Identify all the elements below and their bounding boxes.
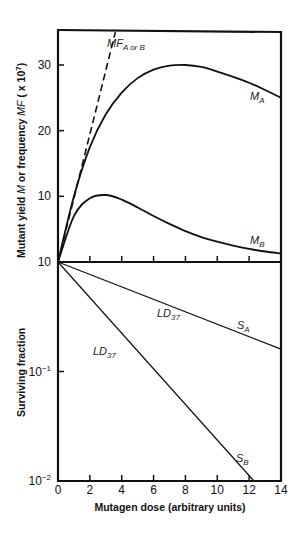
x-tick-label: 6 — [150, 483, 157, 497]
y-tick-label: 30 — [38, 58, 52, 72]
x-axis-title: Mutagen dose (arbitrary units) — [94, 501, 245, 513]
y-tick-label: 20 — [38, 124, 52, 138]
lower-curves — [58, 262, 281, 481]
sb-label: SB — [236, 452, 249, 467]
mf-label: MFA or B — [107, 37, 145, 52]
sa-label: SA — [237, 319, 250, 334]
curve-m-b — [58, 195, 281, 262]
mb-label: MB — [250, 234, 265, 249]
y-tick-label: 10 — [38, 189, 52, 203]
curve-m-a — [58, 65, 281, 262]
x-tick-label: 8 — [182, 483, 189, 497]
y-tick-label: 10 — [38, 255, 52, 269]
x-tick-label: 4 — [118, 483, 125, 497]
y-tick-label: 10−1 — [29, 364, 52, 379]
x-tick-label: 10 — [211, 483, 225, 497]
y-tick-label: 10−2 — [29, 473, 52, 488]
plot-frame — [57, 29, 282, 481]
ld37-label-sb: LD37 — [93, 345, 117, 360]
upper-y-ticks: 102030 — [38, 58, 64, 203]
x-tick-label: 2 — [87, 483, 94, 497]
lower-y-axis-title: Surviving fraction — [15, 328, 27, 417]
upper-y-axis-title: Mutant yield M or frequency MF ( x 107) — [14, 63, 27, 258]
curve-s-a — [58, 262, 281, 349]
ma-label: MA — [250, 90, 265, 105]
ld37-label-sa: LD37 — [157, 307, 181, 322]
x-tick-label: 14 — [274, 483, 288, 497]
mutagen-dose-chart: 102030 1010−110−2 02468101214 MFA or B M… — [0, 0, 301, 540]
x-tick-label: 12 — [242, 483, 256, 497]
x-ticks: 02468101214 — [55, 256, 288, 497]
upper-curves — [58, 32, 281, 262]
curve-s-b — [58, 262, 254, 481]
x-tick-label: 0 — [55, 483, 62, 497]
